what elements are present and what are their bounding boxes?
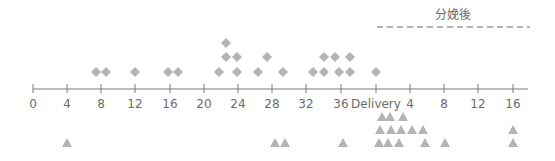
- x-axis-ticks: 04812162024283236Delivery481216: [29, 84, 520, 111]
- tick-label: 16: [505, 97, 520, 111]
- diamond-marker: [334, 67, 344, 77]
- tick-label: 36: [333, 97, 348, 111]
- tick-label: 32: [298, 97, 313, 111]
- diamond-marker: [232, 52, 242, 62]
- tick-label: Delivery: [351, 97, 401, 111]
- diamond-marker: [278, 67, 288, 77]
- diamond-marker: [101, 67, 111, 77]
- diamond-marker: [221, 38, 231, 48]
- diamond-marker: [345, 67, 355, 77]
- diamond-marker: [371, 67, 381, 77]
- triangle-marker: [338, 138, 348, 147]
- triangle-marker: [508, 138, 518, 147]
- diamond-marker: [163, 67, 173, 77]
- diamond-marker: [232, 67, 242, 77]
- tick-label: 8: [97, 97, 105, 111]
- tick-label: 24: [230, 97, 245, 111]
- tick-label: 4: [63, 97, 71, 111]
- tick-label: 12: [470, 97, 485, 111]
- triangle-marker: [375, 125, 385, 134]
- diamond-marker: [173, 67, 183, 77]
- postpartum-label: 分娩後: [435, 8, 471, 22]
- diamond-marker: [319, 67, 329, 77]
- tick-label: 12: [127, 97, 142, 111]
- diamond-marker: [308, 67, 318, 77]
- triangle-marker: [420, 138, 430, 147]
- triangle-marker: [398, 112, 408, 121]
- diamond-marker: [130, 67, 140, 77]
- triangle-marker: [280, 138, 290, 147]
- postpartum-markers: [62, 112, 518, 147]
- diamond-marker: [262, 52, 272, 62]
- triangle-marker: [270, 138, 280, 147]
- pregnancy-markers: [91, 38, 381, 77]
- triangle-marker: [385, 112, 395, 121]
- postpartum-header: 分娩後: [377, 8, 530, 27]
- triangle-marker: [394, 138, 404, 147]
- triangle-marker: [440, 138, 450, 147]
- triangle-marker: [407, 125, 417, 134]
- triangle-marker: [396, 125, 406, 134]
- diamond-marker: [221, 52, 231, 62]
- triangle-marker: [377, 112, 387, 121]
- triangle-marker: [374, 138, 384, 147]
- triangle-marker: [386, 125, 396, 134]
- triangle-marker: [62, 138, 72, 147]
- tick-label: 16: [162, 97, 177, 111]
- tick-label: 28: [264, 97, 279, 111]
- x-axis: 04812162024283236Delivery481216: [29, 84, 528, 111]
- diamond-marker: [345, 52, 355, 62]
- diamond-marker: [253, 67, 263, 77]
- tick-label: 0: [29, 97, 37, 111]
- dot-plot-chart: 分娩後 04812162024283236Delivery481216: [0, 0, 555, 161]
- triangle-marker: [418, 125, 428, 134]
- tick-label: 8: [440, 97, 448, 111]
- triangle-marker: [383, 138, 393, 147]
- diamond-marker: [330, 52, 340, 62]
- tick-label: 4: [406, 97, 414, 111]
- diamond-marker: [319, 52, 329, 62]
- tick-label: 20: [196, 97, 211, 111]
- diamond-marker: [91, 67, 101, 77]
- diamond-marker: [214, 67, 224, 77]
- triangle-marker: [508, 125, 518, 134]
